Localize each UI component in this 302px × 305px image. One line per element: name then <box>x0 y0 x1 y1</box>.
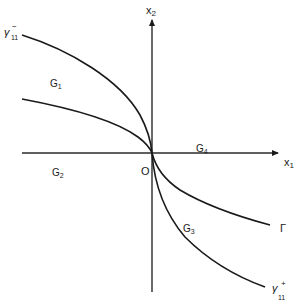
gamma-11-minus-curve <box>22 35 152 153</box>
gamma-curve-upper-branch <box>22 99 152 153</box>
gamma-11-plus-sup: + <box>281 279 286 288</box>
gamma-11-plus-label: γ <box>272 282 279 294</box>
x2-axis-label: x2 <box>146 4 157 18</box>
region-g4-label: G4 <box>196 143 208 155</box>
gamma-11-minus-sup: − <box>12 22 17 31</box>
gamma-11-minus-sub: 11 <box>11 34 18 41</box>
gamma-11-plus-sub: 11 <box>278 294 285 301</box>
x1-axis-label: x1 <box>284 156 295 170</box>
region-g2-label: G2 <box>52 167 64 179</box>
region-g3-label: G3 <box>183 223 195 235</box>
phase-plane-diagram: x2 x1 O G1 G2 G3 G4 γ − 11 Γ γ + 11 <box>0 0 302 305</box>
region-g1-label: G1 <box>50 78 62 90</box>
origin-label: O <box>141 165 150 177</box>
gamma-11-minus-label: γ <box>4 26 11 38</box>
gamma-curve-label: Γ <box>280 222 286 234</box>
gamma-11-plus-curve <box>152 153 265 287</box>
